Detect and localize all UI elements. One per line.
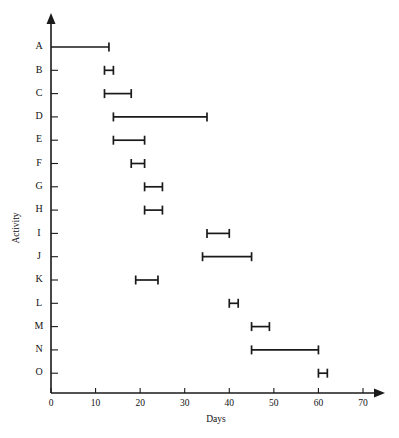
x-axis-title: Days xyxy=(206,414,226,424)
x-tick-label: 30 xyxy=(180,398,190,408)
gantt-bar xyxy=(252,322,270,331)
gantt-bar xyxy=(145,182,163,191)
y-tick-label: N xyxy=(35,343,42,354)
x-tick-label: 70 xyxy=(358,398,368,408)
gantt-bar xyxy=(207,229,229,238)
y-tick-label: O xyxy=(35,366,42,377)
x-tick-label: 20 xyxy=(135,398,145,408)
y-tick-label: I xyxy=(37,227,40,238)
gantt-bar xyxy=(145,206,163,215)
x-axis-tick-labels: 010203040506070 xyxy=(49,398,368,408)
y-axis-ticks xyxy=(51,70,58,373)
y-axis-title: Activity xyxy=(11,212,21,243)
gantt-chart-canvas: 010203040506070 ABCDEFGHIJKLMNO Days Act… xyxy=(0,0,399,438)
y-tick-label: K xyxy=(35,273,43,284)
gantt-bar xyxy=(318,369,327,378)
y-tick-label: A xyxy=(35,40,43,51)
y-tick-label: M xyxy=(35,320,44,331)
y-tick-label: C xyxy=(36,87,43,98)
y-tick-label: F xyxy=(36,157,42,168)
x-tick-label: 60 xyxy=(314,398,324,408)
gantt-bar xyxy=(113,136,144,145)
x-tick-label: 50 xyxy=(269,398,279,408)
x-tick-label: 0 xyxy=(49,398,54,408)
gantt-bar xyxy=(203,252,252,261)
y-tick-label: J xyxy=(37,250,41,261)
y-tick-label: H xyxy=(35,203,42,214)
y-tick-label: G xyxy=(35,180,42,191)
gantt-bar xyxy=(136,276,158,285)
y-tick-label: L xyxy=(36,297,42,308)
gantt-bar xyxy=(252,345,319,354)
x-tick-label: 10 xyxy=(91,398,101,408)
x-axis-arrow-icon xyxy=(374,389,385,398)
gantt-bar xyxy=(131,159,144,168)
y-tick-label: E xyxy=(36,133,42,144)
gantt-bars xyxy=(51,43,327,378)
y-tick-label: B xyxy=(36,64,43,75)
gantt-bar xyxy=(229,299,238,308)
gantt-bar xyxy=(104,89,131,98)
gantt-chart: 010203040506070 ABCDEFGHIJKLMNO Days Act… xyxy=(0,0,399,438)
gantt-bar xyxy=(113,112,207,121)
gantt-bar xyxy=(51,43,109,52)
y-axis-arrow-icon xyxy=(47,13,56,24)
y-tick-label: D xyxy=(35,110,42,121)
x-tick-label: 40 xyxy=(225,398,235,408)
gantt-bar xyxy=(104,66,113,75)
y-axis-tick-labels: ABCDEFGHIJKLMNO xyxy=(35,40,44,377)
